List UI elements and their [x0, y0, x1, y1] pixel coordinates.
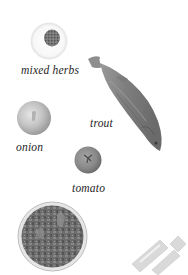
trout-label: trout: [90, 117, 113, 129]
tomato-label: tomato: [72, 182, 105, 194]
mixed-herbs-label: mixed herbs: [21, 64, 79, 76]
onion-image: [16, 100, 52, 136]
tomato-image: [74, 146, 102, 174]
mixed-herbs-dish-image: [30, 22, 68, 60]
pasta-image: [130, 232, 188, 275]
trout-fish-image: [86, 55, 168, 153]
onion-label: onion: [16, 141, 43, 153]
sauce-bowl-image: [17, 201, 88, 272]
